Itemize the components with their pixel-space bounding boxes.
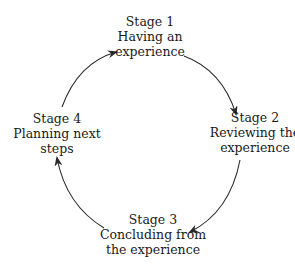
stage-4-node: Stage 4 Planning next steps [13, 111, 101, 156]
stage-1-line-2: experience [115, 44, 185, 59]
stage-3-title: Stage 3 [100, 212, 206, 227]
stage-4-title: Stage 4 [13, 111, 101, 126]
stage-1-line-1: Having an [115, 29, 185, 44]
stage-4-line-2: steps [13, 141, 101, 156]
stage-3-line-1: Concluding from [100, 227, 206, 242]
stage-2-title: Stage 2 [210, 110, 295, 125]
stage-1-title: Stage 1 [115, 14, 185, 29]
stage-3-node: Stage 3 Concluding from the experience [100, 212, 206, 257]
arrow-stage4-to-stage1 [62, 52, 116, 107]
stage-2-line-2: experience [210, 140, 295, 155]
stage-3-line-2: the experience [100, 242, 206, 257]
stage-4-line-1: Planning next [13, 126, 101, 141]
arrow-stage1-to-stage2 [184, 56, 236, 114]
experiential-learning-cycle-diagram: Stage 1 Having an experience Stage 2 Rev… [0, 0, 295, 272]
stage-2-node: Stage 2 Reviewing the experience [210, 110, 295, 155]
arrow-stage3-to-stage4 [57, 158, 104, 228]
stage-1-node: Stage 1 Having an experience [115, 14, 185, 59]
stage-2-line-1: Reviewing the [210, 125, 295, 140]
